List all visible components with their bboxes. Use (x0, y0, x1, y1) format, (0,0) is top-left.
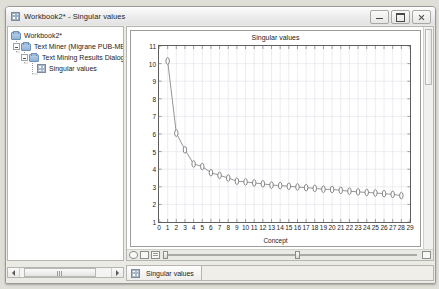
x-tick-label: 9 (235, 224, 239, 231)
data-point[interactable] (261, 181, 264, 188)
sheet-icon (131, 269, 140, 278)
x-tick-label: 6 (209, 224, 213, 231)
x-tick-label: 12 (259, 224, 266, 231)
x-tick-label: 17 (303, 224, 310, 231)
folder-icon (11, 32, 21, 40)
application-window: Workbook2* - Singular values (5, 6, 436, 284)
worksheet-tab-strip[interactable]: Singular values (126, 265, 434, 281)
data-point[interactable] (304, 184, 307, 191)
y-tick-label: 11 (149, 43, 156, 50)
plot-area[interactable]: 1234567891011 01234567891011121314151617… (158, 45, 411, 223)
data-point[interactable] (330, 186, 333, 193)
maximize-button[interactable] (391, 10, 410, 24)
collapse-toggle-icon[interactable] (13, 43, 20, 50)
collapse-toggle-icon[interactable] (21, 54, 28, 61)
data-point[interactable] (313, 185, 316, 192)
data-point[interactable] (235, 178, 238, 185)
x-tick-label: 20 (328, 224, 335, 231)
data-point[interactable] (166, 58, 169, 65)
data-point[interactable] (365, 189, 368, 196)
tab-singular-values[interactable]: Singular values (127, 266, 202, 280)
y-tick-label: 3 (152, 183, 156, 190)
x-tick-label: 13 (268, 224, 275, 231)
y-tick-label: 1 (152, 219, 156, 226)
pan-icon[interactable] (140, 251, 149, 259)
data-point[interactable] (296, 184, 299, 191)
x-tick-label: 21 (337, 224, 344, 231)
x-tick-label: 16 (294, 224, 301, 231)
slider-knob-left[interactable] (163, 251, 168, 259)
fit-icon[interactable] (422, 251, 431, 259)
x-tick-label: 19 (320, 224, 327, 231)
data-point[interactable] (209, 169, 212, 176)
scroll-right-arrow[interactable] (111, 268, 123, 277)
x-tick-label: 22 (346, 224, 353, 231)
data-point[interactable] (183, 147, 186, 154)
horizontal-zoom-slider[interactable] (163, 251, 417, 259)
grid-icon[interactable] (151, 251, 160, 259)
maximize-icon (396, 13, 405, 22)
x-tick-label: 3 (183, 224, 187, 231)
slider-track (163, 254, 417, 256)
data-point[interactable] (400, 192, 403, 199)
chart-title: Singular values (131, 34, 420, 41)
y-tick-label: 8 (152, 95, 156, 102)
window-controls (370, 10, 431, 24)
data-point[interactable] (391, 191, 394, 198)
y-tick-label: 10 (149, 60, 156, 67)
data-point[interactable] (374, 190, 377, 197)
data-point[interactable] (322, 186, 325, 193)
data-point[interactable] (175, 130, 178, 137)
chart-frame: Singular values Singular value, % explai… (130, 30, 421, 247)
tree-horizontal-scrollbar[interactable] (7, 267, 124, 278)
data-point[interactable] (382, 190, 385, 197)
x-tick-label: 15 (285, 224, 292, 231)
x-tick-label: 29 (406, 224, 413, 231)
scroll-left-arrow[interactable] (8, 268, 20, 277)
y-tick-label: 7 (152, 113, 156, 120)
close-button[interactable] (412, 10, 431, 24)
y-tick-label: 5 (152, 148, 156, 155)
data-point[interactable] (227, 175, 230, 182)
chart-zoom-toolbar[interactable] (127, 249, 433, 260)
x-tick-label: 28 (398, 224, 405, 231)
data-point[interactable] (252, 180, 255, 187)
data-point[interactable] (356, 189, 359, 196)
x-tick-label: 18 (311, 224, 318, 231)
x-tick-label: 2 (174, 224, 178, 231)
x-tick-label: 4 (192, 224, 196, 231)
x-tick-label: 1 (166, 224, 170, 231)
x-tick-label: 8 (226, 224, 230, 231)
scroll-track[interactable] (20, 268, 111, 277)
zoom-icon[interactable] (129, 251, 138, 259)
data-point[interactable] (201, 163, 204, 170)
minimize-button[interactable] (370, 10, 389, 24)
data-point[interactable] (192, 161, 195, 168)
data-point[interactable] (244, 179, 247, 186)
y-tick-label: 4 (152, 166, 156, 173)
scroll-thumb[interactable] (24, 268, 96, 277)
x-tick-label: 11 (251, 224, 258, 231)
tab-label: Singular values (146, 270, 194, 277)
data-point[interactable] (270, 182, 273, 189)
chart-vertical-scrollbar[interactable] (423, 27, 433, 250)
data-point[interactable] (348, 188, 351, 195)
close-icon (418, 14, 425, 21)
data-point[interactable] (278, 182, 281, 189)
y-tick-label: 2 (152, 201, 156, 208)
project-tree-panel[interactable]: Workbook2* Text Miner (Migrane PUB-MED T… (7, 26, 124, 261)
data-point[interactable] (339, 187, 342, 194)
slider-knob-right[interactable] (295, 251, 300, 259)
x-tick-label: 27 (389, 224, 396, 231)
chart-vertical-thumb[interactable] (425, 29, 432, 85)
data-point[interactable] (287, 183, 290, 190)
folder-icon (21, 43, 31, 51)
window-title: Workbook2* - Singular values (24, 12, 125, 21)
chart-panel[interactable]: Singular values Singular value, % explai… (126, 26, 434, 261)
x-tick-label: 25 (372, 224, 379, 231)
x-tick-label: 24 (363, 224, 370, 231)
data-point[interactable] (218, 172, 221, 179)
x-tick-label: 7 (218, 224, 222, 231)
y-tick-label: 9 (152, 78, 156, 85)
client-area: Workbook2* Text Miner (Migrane PUB-MED T… (6, 25, 435, 283)
